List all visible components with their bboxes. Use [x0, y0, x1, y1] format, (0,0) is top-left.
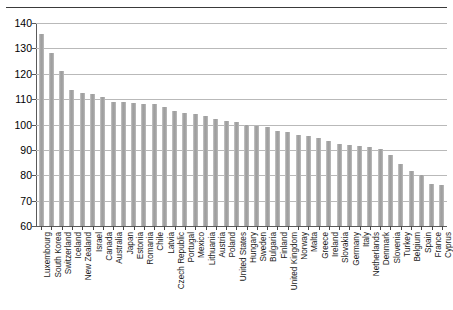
x-tick-label: Cyprus — [445, 232, 453, 258]
x-tick-label: Czech Republic — [178, 232, 186, 289]
y-tick-label: 60 — [4, 221, 32, 231]
bar — [347, 145, 352, 226]
x-tick-label: United States — [240, 232, 248, 281]
x-tick-mark — [154, 226, 155, 230]
bar — [213, 119, 218, 226]
bar — [357, 146, 362, 226]
x-tick-mark — [226, 226, 227, 230]
bar — [285, 132, 290, 226]
x-axis-line — [36, 226, 447, 227]
x-tick-label: Romania — [147, 232, 155, 265]
x-tick-mark — [82, 226, 83, 230]
x-tick-label: Germany — [353, 232, 361, 266]
x-tick-label: Portugal — [188, 232, 196, 263]
x-tick-mark — [51, 226, 52, 230]
y-tick-label: 80 — [4, 170, 32, 180]
x-tick-mark — [216, 226, 217, 230]
x-tick-label: Spain — [425, 232, 433, 253]
x-tick-mark — [370, 226, 371, 230]
x-tick-mark — [432, 226, 433, 230]
bar — [182, 113, 187, 226]
bar-chart-figure: 14013012011010090807060 LuxembourgSouth … — [0, 0, 453, 310]
bar — [398, 164, 403, 226]
x-tick-label: Estonia — [137, 232, 145, 259]
x-tick-mark — [277, 226, 278, 230]
x-tick-label: Austria — [219, 232, 227, 257]
x-tick-label: Latvia — [168, 232, 176, 254]
x-tick-label: Turkey — [404, 232, 412, 257]
bar — [100, 97, 105, 226]
x-tick-label: Sweden — [260, 232, 268, 262]
bar — [69, 90, 74, 226]
bar — [244, 125, 249, 227]
x-tick-mark — [236, 226, 237, 230]
x-tick-mark — [339, 226, 340, 230]
x-tick-mark — [206, 226, 207, 230]
x-tick-label: Japan — [127, 232, 135, 254]
bar — [429, 184, 434, 226]
x-tick-mark — [360, 226, 361, 230]
bar — [111, 102, 116, 226]
x-tick-label: Luxembourg — [44, 232, 52, 278]
bar — [49, 53, 54, 226]
y-axis-labels: 14013012011010090807060 — [0, 0, 32, 310]
x-tick-mark — [134, 226, 135, 230]
bar — [337, 144, 342, 226]
x-tick-mark — [421, 226, 422, 230]
bar — [439, 185, 444, 226]
x-tick-mark — [288, 226, 289, 230]
x-tick-label: Belgium — [414, 232, 422, 262]
x-tick-label: Lithuania — [209, 232, 217, 265]
y-tick-label: 120 — [4, 69, 32, 79]
bars-container — [36, 23, 447, 226]
x-tick-mark — [113, 226, 114, 230]
x-tick-label: United Kingdom — [291, 232, 299, 290]
bar — [326, 141, 331, 226]
y-tick-label: 70 — [4, 196, 32, 206]
x-tick-label: Greece — [322, 232, 330, 259]
x-tick-label: Israel — [96, 232, 104, 252]
bar — [367, 147, 372, 226]
x-tick-mark — [103, 226, 104, 230]
x-tick-mark — [195, 226, 196, 230]
x-tick-label: Slovakia — [342, 232, 350, 263]
x-tick-mark — [329, 226, 330, 230]
bar — [203, 116, 208, 226]
bar — [409, 171, 414, 226]
bar — [234, 122, 239, 226]
x-tick-mark — [411, 226, 412, 230]
x-tick-mark — [257, 226, 258, 230]
bar — [224, 121, 229, 226]
bar — [152, 104, 157, 226]
x-tick-label: New Zealand — [85, 232, 93, 280]
x-tick-mark — [41, 226, 42, 230]
x-tick-mark — [380, 226, 381, 230]
bar — [254, 126, 259, 226]
x-tick-label: Finland — [281, 232, 289, 259]
bar — [162, 107, 167, 226]
bar — [275, 131, 280, 226]
x-tick-label: Iceland — [75, 232, 83, 258]
x-tick-mark — [401, 226, 402, 230]
x-axis-labels: LuxembourgSouth KoreaSwitzerlandIcelandN… — [36, 232, 447, 310]
x-tick-label: South Korea — [55, 232, 63, 278]
bar — [172, 111, 177, 226]
y-tick-label: 100 — [4, 120, 32, 130]
bar — [141, 104, 146, 226]
bar — [90, 94, 95, 226]
bar — [378, 149, 383, 226]
x-tick-label: Slovenia — [394, 232, 402, 263]
bar — [388, 155, 393, 226]
x-tick-mark — [267, 226, 268, 230]
x-tick-mark — [442, 226, 443, 230]
x-tick-mark — [185, 226, 186, 230]
x-tick-label: Poland — [229, 232, 237, 258]
x-tick-mark — [62, 226, 63, 230]
bar — [121, 102, 126, 226]
bar — [80, 93, 85, 226]
x-tick-mark — [123, 226, 124, 230]
x-tick-mark — [298, 226, 299, 230]
x-tick-mark — [390, 226, 391, 230]
x-tick-label: Denmark — [383, 232, 391, 265]
x-tick-label: France — [435, 232, 443, 257]
